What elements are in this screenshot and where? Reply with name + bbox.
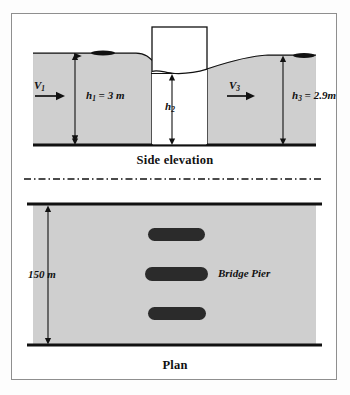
side-elevation-title: Side elevation [0, 154, 350, 167]
pier-interior-mask [152, 69, 207, 144]
figure-container: V1 h1 = 3 m h2 V3 h3 = 2.9m Side elevati… [0, 0, 350, 395]
channel-width-label: 150 m [28, 269, 56, 280]
plan-title: Plan [0, 359, 350, 372]
h2-label: h2 [165, 101, 175, 114]
plan-pier-2 [145, 267, 208, 281]
plan-pier-1 [148, 228, 205, 241]
v3-label: V3 [229, 80, 240, 93]
water-level-symbol-downstream [293, 53, 315, 58]
v1-label: V1 [34, 80, 45, 93]
h3-label: h3 = 2.9m [292, 90, 336, 103]
bridge-pier-label: Bridge Pier [218, 268, 270, 279]
water-level-symbol-upstream [91, 51, 115, 56]
diagram-canvas [0, 0, 350, 395]
h1-label: h1 = 3 m [86, 90, 124, 103]
plan-pier-3 [148, 307, 206, 320]
